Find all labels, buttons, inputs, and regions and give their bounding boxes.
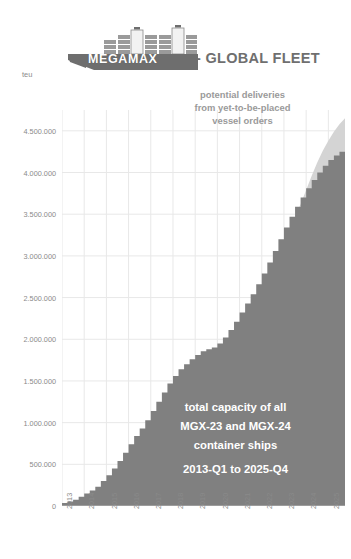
y-axis-tick-label: 3.000.000: [4, 252, 56, 261]
y-axis-tick-label: 4.500.000: [4, 127, 56, 136]
annotation-potential-deliveries: potential deliveries from yet-to-be-plac…: [150, 88, 335, 128]
x-axis-tick-label: 2018: [176, 493, 185, 509]
x-axis-tick-label: 2015: [110, 493, 119, 509]
y-axis-tick-label: 0: [4, 502, 56, 511]
x-axis-tick-label: 2025: [332, 493, 341, 509]
chart-page: MEGAMAX - GLOBAL FLEET teu 0500.0001.000…: [0, 0, 351, 559]
chart-title: - GLOBAL FLEET: [196, 50, 320, 66]
x-axis-tick-label: 2013: [65, 493, 74, 509]
y-axis-tick-label: 1.500.000: [4, 377, 56, 386]
x-axis-tick-label: 2024: [309, 493, 318, 509]
annotation-bottom-line-2: MGX-23 and MGX-24: [128, 417, 343, 436]
y-axis-tick-label: 3.500.000: [4, 210, 56, 219]
x-axis-tick-label: 2021: [243, 493, 252, 509]
x-axis-tick-label: 2017: [154, 493, 163, 509]
x-axis-tick-label: 2023: [287, 493, 296, 509]
annotation-bottom-line-1: total capacity of all: [128, 398, 343, 417]
annotation-bottom-line-3: container ships: [128, 436, 343, 455]
annotation-bottom-line-4: 2013-Q1 to 2025-Q4: [128, 460, 343, 479]
x-axis-tick-label: 2016: [132, 493, 141, 509]
y-axis-tick-label: 4.000.000: [4, 169, 56, 178]
chart-header: MEGAMAX - GLOBAL FLEET: [0, 24, 351, 82]
y-axis-tick-label: 1.000.000: [4, 419, 56, 428]
y-axis-tick-label: 2.500.000: [4, 294, 56, 303]
brand-label: MEGAMAX: [88, 52, 157, 66]
y-axis-unit-label: teu: [22, 70, 32, 79]
y-axis-tick-label: 500.000: [4, 460, 56, 469]
annotation-top-line-3: vessel orders: [150, 114, 335, 127]
x-axis-tick-label: 2022: [265, 493, 274, 509]
annotation-total-capacity: total capacity of all MGX-23 and MGX-24 …: [128, 398, 343, 479]
annotation-top-line-1: potential deliveries: [150, 88, 335, 101]
annotation-top-line-2: from yet-to-be-placed: [150, 101, 335, 114]
x-axis-tick-label: 2014: [87, 493, 96, 509]
x-axis-tick-label: 2019: [198, 493, 207, 509]
y-axis-tick-label: 2.000.000: [4, 335, 56, 344]
x-axis-tick-label: 2020: [221, 493, 230, 509]
